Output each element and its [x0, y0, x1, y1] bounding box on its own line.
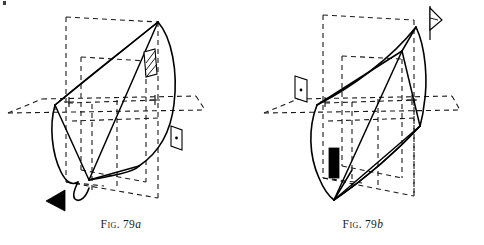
figure-79b-caption-suffix: b: [377, 218, 383, 230]
figure-79a-drawing: [0, 0, 242, 215]
upper-curved-edge: [317, 27, 416, 105]
solid-bar-body: [329, 148, 339, 178]
figure-79a-caption-suffix: a: [135, 218, 141, 230]
interior-guide-upper: [325, 100, 416, 103]
plane-top-edge: [66, 17, 158, 22]
generator-left-to-apex-bowed: [55, 22, 158, 105]
horizontal-plane-back-edge: [298, 96, 452, 99]
solid-arrowhead-marker: [46, 190, 65, 211]
figure-79b-caption-number: 79: [365, 218, 377, 230]
dotted-flag-dot: [175, 137, 178, 140]
hatched-vane-body: [144, 49, 157, 77]
plane-top-edge: [323, 15, 414, 20]
pennant-flag-marker: [430, 6, 442, 40]
horizontal-axis-line: [264, 110, 460, 113]
figure-79b-caption-prefix: Fig.: [343, 218, 362, 230]
generator-node-to-right: [402, 51, 420, 126]
plane-bottom-edge: [66, 182, 158, 198]
figure-plate: Fig.79a Fig.79b: [0, 0, 484, 245]
generator-lower-to-right: [89, 166, 139, 180]
figure-79b: [242, 0, 484, 245]
figure-79b-caption: Fig.79b: [242, 218, 484, 230]
horizontal-plane-left-back: [8, 99, 42, 113]
figure-79b-drawing: [242, 0, 484, 215]
right-curved-edge: [139, 22, 175, 166]
pennant-body: [430, 8, 442, 30]
horizontal-plane-right-back: [452, 96, 460, 110]
figure-79a-caption-prefix: Fig.: [101, 218, 120, 230]
dotted-flag-marker: [171, 126, 182, 150]
solid-arrowhead-body: [46, 190, 65, 211]
interior-guide-upper: [68, 100, 158, 103]
solid-bar-marker: [329, 148, 339, 178]
bottom-curl-edge: [74, 182, 89, 200]
horizontal-axis-line: [8, 110, 205, 113]
dotted-flag-dot: [300, 89, 303, 92]
hatched-vane-marker: [144, 49, 157, 77]
dotted-flag-marker: [295, 76, 307, 102]
figure-79a: [0, 0, 242, 245]
figure-b-dashed-construction: [264, 15, 460, 196]
left-curved-edge: [52, 105, 78, 184]
figure-a-dashed-construction: [8, 17, 205, 198]
figure-79a-caption: Fig.79a: [0, 218, 242, 230]
horizontal-plane-left-back: [264, 99, 298, 113]
generator-apex-to-lower-vertex: [89, 22, 158, 180]
horizontal-plane-right-back: [196, 96, 205, 110]
figure-79a-caption-number: 79: [123, 218, 135, 230]
